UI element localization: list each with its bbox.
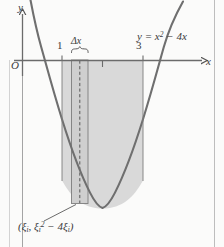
figure-container: y O x 1 3 Δx y = x2 − 4x (ξi, ξi2 − 4ξi) <box>0 0 224 247</box>
point-label-leader-line <box>44 205 76 222</box>
curve-eq-minus: − <box>166 30 173 42</box>
delta-x-label: Δx <box>71 36 81 46</box>
delta-x-brace <box>72 47 89 53</box>
point-close-paren: ) <box>70 220 74 232</box>
y-axis-label: y <box>18 2 23 13</box>
point-minus: − <box>45 220 58 232</box>
curve-eq-lhs: y <box>137 30 142 42</box>
curve-equation-label: y = x2 − 4x <box>137 31 187 42</box>
graph-canvas <box>0 0 224 247</box>
curve-eq-exponent: 2 <box>160 30 164 39</box>
x-tick-label-1: 1 <box>57 40 63 51</box>
x-axis-label: x <box>206 56 211 67</box>
sample-point-label: (ξi, ξi2 − 4ξi) <box>18 221 73 232</box>
curve-eq-linear-term: 4x <box>176 30 186 42</box>
curve-eq-equals: = <box>145 30 152 42</box>
origin-label: O <box>11 60 19 71</box>
